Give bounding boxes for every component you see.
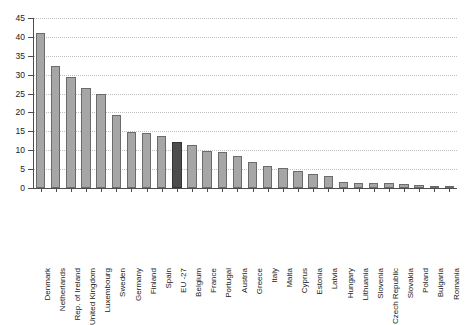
y-tick-20 <box>28 112 33 113</box>
x-tick-label: Luxembourg <box>104 268 112 312</box>
y-tick-15 <box>28 131 33 132</box>
y-tick-5 <box>28 169 33 170</box>
bar <box>248 162 257 188</box>
x-axis-line <box>33 188 457 189</box>
y-tick-30 <box>28 75 33 76</box>
bar <box>81 88 90 188</box>
bar <box>202 151 211 188</box>
y-tick-label-40: 40 <box>0 33 25 42</box>
y-axis-line <box>33 18 34 188</box>
y-tick-label-45: 45 <box>0 14 25 23</box>
x-tick-label: Cyprus <box>301 268 309 293</box>
bar <box>51 66 60 188</box>
x-tick-label: United Kingdom <box>89 268 97 325</box>
x-tick-label: Slovakia <box>407 268 415 298</box>
y-tick-0 <box>28 188 33 189</box>
bar <box>187 145 196 188</box>
x-tick-label: Malta <box>286 268 294 288</box>
x-tick-label: Bulgaria <box>437 268 445 297</box>
bar <box>66 77 75 188</box>
bar <box>324 176 333 188</box>
y-tick-25 <box>28 94 33 95</box>
x-tick-label: Slovenia <box>377 268 385 299</box>
x-tick-label: Poland <box>422 268 430 293</box>
x-tick-label: Belgium <box>195 268 203 297</box>
x-tick-label: Germany <box>135 268 143 301</box>
x-tick-label: Finland <box>150 268 158 294</box>
bar <box>233 156 242 188</box>
bar <box>218 152 227 188</box>
y-tick-label-20: 20 <box>0 108 25 117</box>
y-tick-label-35: 35 <box>0 52 25 61</box>
y-tick-label-5: 5 <box>0 165 25 174</box>
x-tick-label: Italy <box>271 268 279 283</box>
y-tick-40 <box>28 37 33 38</box>
bar <box>157 136 166 188</box>
x-tick-label: Austria <box>241 268 249 293</box>
bar <box>96 94 105 188</box>
bar <box>263 166 272 188</box>
bar <box>36 33 45 188</box>
x-tick-label: Sweden <box>119 268 127 297</box>
bar <box>278 168 287 188</box>
bar <box>112 115 121 188</box>
x-tick-label: Estonia <box>316 268 324 295</box>
x-tick-label: Spain <box>165 268 173 288</box>
y-tick-45 <box>28 18 33 19</box>
y-tick-label-0: 0 <box>0 184 25 193</box>
x-tick-label: Denmark <box>44 268 52 300</box>
y-tick-label-30: 30 <box>0 70 25 79</box>
y-tick-10 <box>28 150 33 151</box>
bar <box>308 174 317 188</box>
x-tick-label: Netherlands <box>59 268 67 311</box>
x-tick-label: EU -27 <box>180 268 188 293</box>
y-tick-label-25: 25 <box>0 89 25 98</box>
x-tick-label: Rep. of Ireland <box>74 268 82 320</box>
x-tick-label: Romania <box>453 268 461 300</box>
bar <box>142 133 151 188</box>
y-tick-label-15: 15 <box>0 127 25 136</box>
x-tick-label: France <box>210 268 218 293</box>
bar-series <box>33 18 457 188</box>
bar <box>127 132 136 188</box>
x-axis-labels: DenmarkNetherlandsRep. of IrelandUnited … <box>33 192 457 270</box>
x-tick-label: Hungary <box>347 268 355 298</box>
bar <box>172 142 181 188</box>
y-tick-label-10: 10 <box>0 146 25 155</box>
x-tick-label: Czech Republic <box>392 268 400 324</box>
bar <box>293 171 302 188</box>
x-tick-label: Portugal <box>225 268 233 298</box>
plot-area <box>33 18 457 188</box>
x-tick-label: Lithuania <box>362 268 370 300</box>
x-tick-label: Latvia <box>331 268 339 289</box>
y-tick-35 <box>28 56 33 57</box>
x-tick-label: Greece <box>256 268 264 294</box>
